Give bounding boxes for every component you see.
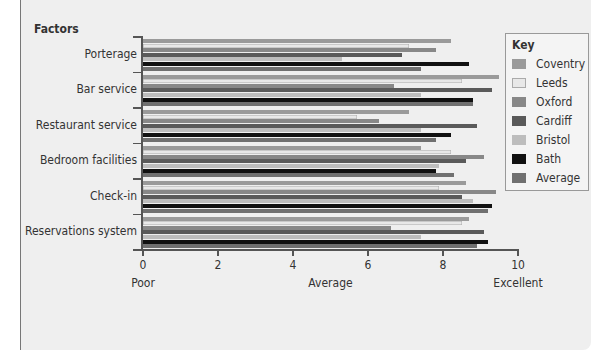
bar-leeds	[143, 115, 357, 119]
bar-bath	[143, 133, 451, 137]
bar-leeds	[143, 44, 409, 48]
bar-oxford	[143, 119, 379, 123]
category-label: Restaurant service	[36, 118, 137, 132]
y-tick	[133, 36, 142, 38]
bar-cardiff	[143, 159, 466, 163]
legend-label: Average	[536, 171, 580, 185]
bar-leeds	[143, 79, 462, 83]
bar-average	[143, 244, 477, 248]
legend-label: Bristol	[536, 133, 570, 147]
legend-swatch	[512, 173, 526, 183]
bar-average	[143, 102, 473, 106]
x-category-label: Poor	[131, 276, 155, 290]
bar-leeds	[143, 221, 462, 225]
legend-label: Coventry	[536, 57, 585, 71]
x-tick-label: 10	[511, 258, 525, 272]
x-tick-label: 2	[215, 258, 222, 272]
legend-swatch	[512, 78, 526, 88]
bar-leeds	[143, 186, 439, 190]
bar-cardiff	[143, 195, 462, 199]
bar-leeds	[143, 150, 451, 154]
legend-title: Key	[512, 38, 535, 52]
legend-swatch	[512, 97, 526, 107]
x-tick-label: 6	[365, 258, 372, 272]
bar-cardiff	[143, 124, 477, 128]
chart-title: Factors	[34, 22, 79, 36]
bar-bristol	[143, 93, 421, 97]
bar-bath	[143, 169, 436, 173]
x-tick	[367, 249, 369, 256]
x-category-label: Excellent	[493, 276, 542, 290]
bar-bristol	[143, 128, 421, 132]
legend-swatch	[512, 135, 526, 145]
legend-label: Cardiff	[536, 114, 572, 128]
category-label: Bedroom facilities	[40, 153, 137, 167]
bar-coventry	[143, 110, 409, 114]
legend-swatch	[512, 154, 526, 164]
x-tick	[442, 249, 444, 256]
x-tick-label: 4	[290, 258, 297, 272]
category-label: Porterage	[84, 47, 137, 61]
bar-coventry	[143, 75, 499, 79]
bar-bath	[143, 62, 469, 66]
bar-coventry	[143, 146, 421, 150]
x-tick-label: 8	[440, 258, 447, 272]
bar-bristol	[143, 235, 421, 239]
legend-item: Bristol	[512, 132, 570, 148]
bar-bath	[143, 98, 473, 102]
x-tick	[142, 249, 144, 256]
category-label: Check-in	[90, 189, 137, 203]
y-tick	[133, 143, 142, 145]
legend-swatch	[512, 59, 526, 69]
bar-average	[143, 209, 488, 213]
legend-label: Bath	[536, 152, 561, 166]
bar-coventry	[143, 181, 466, 185]
category-label: Reservations system	[25, 224, 137, 238]
bar-oxford	[143, 190, 496, 194]
bar-bristol	[143, 164, 439, 168]
x-tick	[292, 249, 294, 256]
legend-swatch	[512, 116, 526, 126]
legend-item: Oxford	[512, 94, 572, 110]
legend-label: Leeds	[536, 76, 568, 90]
x-tick-label: 0	[140, 258, 147, 272]
bar-cardiff	[143, 230, 484, 234]
bar-cardiff	[143, 88, 492, 92]
bar-oxford	[143, 84, 394, 88]
x-axis	[141, 249, 519, 251]
legend-item: Cardiff	[512, 113, 572, 129]
x-tick	[517, 249, 519, 256]
bar-bristol	[143, 199, 473, 203]
bar-bath	[143, 204, 492, 208]
bar-coventry	[143, 217, 469, 221]
bar-coventry	[143, 39, 451, 43]
bar-bristol	[143, 57, 342, 61]
y-tick	[133, 72, 142, 74]
x-tick	[217, 249, 219, 256]
y-tick	[133, 107, 142, 109]
bar-oxford	[143, 155, 484, 159]
legend-item: Leeds	[512, 75, 568, 91]
legend-label: Oxford	[536, 95, 572, 109]
bar-oxford	[143, 48, 436, 52]
bar-oxford	[143, 226, 391, 230]
bar-bath	[143, 240, 488, 244]
y-tick	[133, 214, 142, 216]
x-category-label: Average	[308, 276, 352, 290]
bar-average	[143, 173, 454, 177]
legend-item: Bath	[512, 151, 561, 167]
legend-item: Average	[512, 170, 580, 186]
bar-cardiff	[143, 53, 402, 57]
category-label: Bar service	[76, 82, 137, 96]
legend-item: Coventry	[512, 56, 585, 72]
y-tick	[133, 249, 142, 251]
legend: Key CoventryLeedsOxfordCardiffBristolBat…	[505, 33, 589, 191]
bar-average	[143, 67, 421, 71]
y-tick	[133, 178, 142, 180]
bar-average	[143, 138, 436, 142]
